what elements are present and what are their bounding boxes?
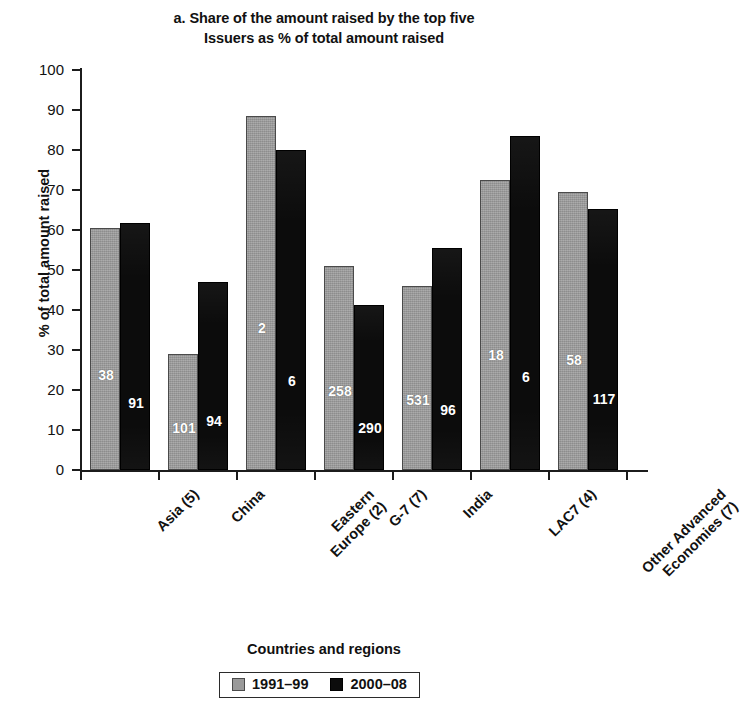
x-axis-tick xyxy=(548,471,550,480)
legend-item: 1991–99 xyxy=(232,677,308,692)
bar-value-label: 94 xyxy=(201,414,227,428)
bar xyxy=(402,286,432,470)
bar-value-label: 101 xyxy=(171,421,197,435)
y-axis-tick-label: 80 xyxy=(18,143,64,157)
y-axis-tick xyxy=(72,349,80,351)
bar xyxy=(588,209,618,470)
bar xyxy=(432,248,462,470)
bar-value-label: 38 xyxy=(93,368,119,382)
bar xyxy=(324,266,354,470)
x-axis-category-label: China xyxy=(228,486,269,527)
y-axis-tick xyxy=(72,189,80,191)
y-axis-tick-label: 0 xyxy=(18,463,64,477)
x-axis-line xyxy=(80,470,648,472)
x-axis-title: Countries and regions xyxy=(0,641,648,657)
x-axis-category-label-line: Asia (5) xyxy=(153,486,202,535)
y-axis-tick-label: 90 xyxy=(18,103,64,117)
y-axis-tick-label: 20 xyxy=(18,383,64,397)
bar xyxy=(168,354,198,470)
y-axis-tick-label: 70 xyxy=(18,183,64,197)
bar xyxy=(246,116,276,470)
y-axis-tick xyxy=(72,469,80,471)
bar xyxy=(510,136,540,470)
bar-value-label: 18 xyxy=(483,348,509,362)
bar-value-label: 531 xyxy=(405,393,431,407)
legend-label: 1991–99 xyxy=(252,677,308,692)
x-axis-category-label: Other AdvancedEconomies (7) xyxy=(639,486,742,589)
y-axis-tick-label: 100 xyxy=(18,63,64,77)
x-axis-tick xyxy=(158,471,160,480)
bar xyxy=(276,150,306,470)
bar-value-label: 6 xyxy=(279,374,305,388)
x-axis-category-label: LAC7 (4) xyxy=(545,486,599,540)
bar xyxy=(120,223,150,470)
y-axis-tick-label: 40 xyxy=(18,303,64,317)
y-axis-tick xyxy=(72,149,80,151)
bar-value-label: 91 xyxy=(123,396,149,410)
chart-legend: 1991–992000–08 xyxy=(219,672,420,698)
y-axis-tick xyxy=(72,229,80,231)
bar xyxy=(558,192,588,470)
bar-value-label: 6 xyxy=(513,370,539,384)
x-axis-category-label-line: China xyxy=(228,486,269,527)
x-axis-tick xyxy=(236,471,238,480)
x-axis-tick xyxy=(626,471,628,480)
bar-value-label: 96 xyxy=(435,403,461,417)
y-axis-tick xyxy=(72,109,80,111)
y-axis-tick-label: 10 xyxy=(18,423,64,437)
x-axis-category-label: EasternEurope (2) xyxy=(315,486,390,561)
y-axis-tick xyxy=(72,389,80,391)
x-axis-category-label-line: India xyxy=(460,486,496,522)
x-axis-category-label-line: G-7 (7) xyxy=(385,486,429,530)
legend-item: 2000–08 xyxy=(330,677,406,692)
y-axis-tick xyxy=(72,429,80,431)
legend-swatch-black xyxy=(330,678,343,691)
x-axis-tick xyxy=(314,471,316,480)
y-axis-tick xyxy=(72,309,80,311)
x-axis-category-label: Asia (5) xyxy=(153,486,202,535)
bar-value-label: 258 xyxy=(327,384,353,398)
bar xyxy=(480,180,510,470)
y-axis-tick xyxy=(72,269,80,271)
y-axis-line xyxy=(80,68,82,472)
legend-label: 2000–08 xyxy=(350,677,406,692)
x-axis-tick xyxy=(470,471,472,480)
bar xyxy=(354,305,384,470)
y-axis-tick-label: 50 xyxy=(18,263,64,277)
x-axis-tick xyxy=(80,471,82,480)
y-axis-tick xyxy=(72,69,80,71)
bar-value-label: 58 xyxy=(561,353,587,367)
x-axis-category-label: G-7 (7) xyxy=(385,486,429,530)
legend-swatch-gray xyxy=(232,678,245,691)
bar-value-label: 117 xyxy=(591,392,617,406)
x-axis-category-label-line: LAC7 (4) xyxy=(545,486,599,540)
bar-value-label: 2 xyxy=(249,321,275,335)
y-axis-tick-label: 60 xyxy=(18,223,64,237)
x-axis-tick xyxy=(392,471,394,480)
y-axis-tick-label: 30 xyxy=(18,343,64,357)
x-axis-category-label: India xyxy=(460,486,496,522)
bar-value-label: 290 xyxy=(357,421,383,435)
bar xyxy=(90,228,120,470)
bar xyxy=(198,282,228,470)
